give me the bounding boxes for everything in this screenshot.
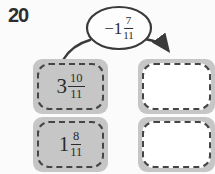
given-card-2: 1 8 11 [33, 117, 108, 172]
fraction: 8 11 [70, 130, 82, 159]
arrow-to-answer-box [145, 39, 168, 50]
dashed-outline: 1 8 11 [37, 121, 104, 168]
denominator: 11 [123, 29, 134, 42]
numerator: 10 [68, 72, 85, 87]
whole-part: 1 [59, 134, 70, 155]
numerator: 8 [71, 130, 81, 145]
mixed-number: 1 8 11 [59, 130, 83, 159]
denominator: 11 [70, 145, 82, 159]
given-card-1: 3 10 11 [33, 59, 108, 114]
whole-part: −1 [104, 20, 122, 37]
arrow-to-given-cards [63, 40, 90, 60]
whole-part: 3 [57, 76, 68, 97]
mixed-number: −1 7 11 [104, 15, 134, 41]
fraction: 10 11 [68, 72, 85, 101]
numerator: 7 [124, 15, 134, 29]
dashed-outline [142, 121, 211, 168]
answer-box-1[interactable] [138, 59, 215, 114]
operation-value: −1 7 11 [104, 15, 134, 41]
dashed-outline: 3 10 11 [37, 63, 104, 110]
denominator: 11 [70, 87, 82, 101]
worksheet-exercise: 20 −1 7 11 3 10 11 [0, 0, 215, 174]
answer-box-2[interactable] [138, 117, 215, 172]
fraction: 7 11 [123, 15, 134, 41]
dashed-outline [142, 63, 211, 110]
mixed-number: 3 10 11 [57, 72, 85, 101]
